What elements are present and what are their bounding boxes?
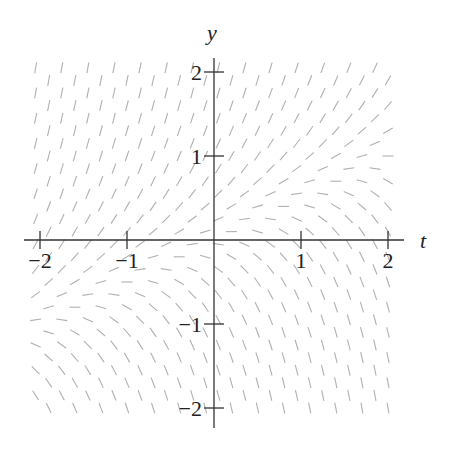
slope-segment: [125, 403, 129, 413]
slope-segment: [151, 151, 155, 161]
slope-segment: [110, 240, 118, 248]
slope-segment: [308, 327, 311, 337]
slope-segment: [174, 229, 184, 235]
slope-segment: [164, 340, 169, 350]
slope-segment: [319, 240, 326, 249]
slope-segment: [191, 88, 194, 99]
slope-segment: [126, 75, 128, 86]
slope-segment: [279, 178, 289, 184]
slope-segment: [137, 340, 143, 349]
slope-segment: [112, 390, 116, 400]
slope-segment: [202, 303, 208, 312]
slope-segment: [151, 378, 155, 388]
y-axis-label: y: [205, 20, 217, 45]
slope-segment: [72, 378, 77, 388]
slope-segment: [177, 126, 181, 136]
slope-segment: [43, 306, 54, 309]
slope-segment: [295, 365, 298, 376]
slope-segment: [282, 352, 285, 363]
slope-segment: [256, 352, 259, 362]
slope-segment: [346, 240, 352, 249]
slope-segment: [98, 227, 104, 236]
slope-segment: [190, 340, 195, 350]
slope-segment: [359, 101, 365, 110]
slope-segment: [125, 176, 129, 186]
slope-segment: [176, 176, 181, 186]
slope-segment: [139, 88, 142, 99]
slope-segment: [152, 75, 154, 86]
slope-segment: [384, 202, 391, 210]
slope-segment: [96, 280, 107, 283]
slope-segment: [98, 201, 103, 211]
slope-segment: [357, 154, 368, 157]
slope-segment: [126, 100, 129, 111]
slope-segment: [216, 340, 220, 350]
slope-segment: [281, 277, 286, 287]
slope-segment: [74, 100, 76, 111]
slope-segment: [267, 265, 274, 274]
slope-segment: [150, 328, 156, 337]
slope-segment: [163, 189, 169, 198]
slope-segment: [150, 202, 156, 211]
slope-segment: [57, 342, 66, 348]
slope-segment: [255, 126, 260, 136]
slope-segment: [215, 164, 221, 173]
slope-segment: [343, 168, 354, 170]
slope-segment: [73, 201, 77, 211]
slope-segment: [358, 127, 366, 134]
slope-segment: [267, 165, 275, 173]
slope-segment: [151, 176, 156, 186]
slope-segments: [30, 62, 393, 413]
slope-segment: [228, 177, 235, 185]
slope-segment: [162, 215, 170, 223]
slope-segment: [347, 340, 350, 351]
slope-segment: [254, 277, 260, 286]
slope-segment: [256, 75, 259, 85]
slope-segment: [215, 290, 222, 299]
slope-segment: [331, 204, 341, 210]
slope-segment: [34, 138, 37, 149]
slope-segment: [178, 100, 181, 111]
slope-segment: [372, 215, 379, 224]
slope-segment: [229, 327, 233, 337]
slope-segment: [295, 88, 299, 98]
slope-segment: [321, 365, 324, 376]
y-tick-label: 2: [191, 60, 202, 85]
slope-segment: [331, 153, 341, 159]
y-tick-label: −2: [179, 396, 202, 421]
slope-segment: [100, 75, 102, 86]
slope-segment: [320, 265, 325, 275]
slope-segment: [98, 353, 104, 362]
slope-segment: [176, 303, 183, 311]
slope-segment: [319, 139, 327, 147]
slope-segment: [204, 378, 207, 388]
slope-segment: [332, 127, 339, 135]
slope-segment: [242, 113, 246, 123]
slope-segment: [86, 138, 89, 149]
slope-segment: [136, 241, 145, 247]
slope-segment: [281, 126, 286, 136]
slope-segment: [317, 193, 328, 195]
slope-segment: [269, 390, 272, 401]
slope-segment: [321, 340, 324, 351]
slope-segment: [347, 315, 350, 326]
slope-segment: [217, 365, 220, 375]
slope-segment: [85, 240, 92, 249]
slope-segment: [332, 227, 339, 235]
slope-segment: [99, 176, 103, 186]
slope-segment: [46, 227, 51, 237]
slope-segment: [229, 302, 234, 312]
slope-segment: [200, 230, 211, 233]
slope-segment: [97, 253, 105, 260]
slope-segment: [358, 203, 366, 210]
slope-segment: [188, 216, 197, 222]
slope-segment: [217, 390, 220, 401]
slope-segment: [57, 292, 67, 296]
slope-segment: [203, 327, 208, 337]
slope-segment: [164, 138, 168, 148]
slope-segment: [111, 365, 116, 375]
slope-segment: [372, 239, 377, 249]
slope-segment: [345, 215, 353, 223]
y-tick-label: −1: [179, 312, 202, 337]
slope-segment: [304, 180, 315, 183]
